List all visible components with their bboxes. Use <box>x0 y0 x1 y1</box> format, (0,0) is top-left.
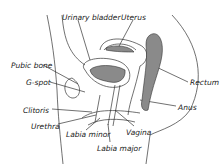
rectum-fill <box>141 34 162 111</box>
label-rectum: Rectum <box>190 79 219 87</box>
label-urethra: Urethra <box>31 123 60 131</box>
label-labia-major: Labia major <box>97 145 141 153</box>
label-pubic-bone: Pubic bone <box>11 62 52 70</box>
label-g-spot: G-spot <box>26 79 51 87</box>
label-labia-minor: Labia minor <box>66 131 110 139</box>
label-anus: Anus <box>178 104 197 112</box>
bladder-fill <box>90 66 125 83</box>
label-clitoris: Clitoris <box>23 107 49 115</box>
body-outline-front <box>47 15 63 164</box>
urethra-canal <box>95 95 100 122</box>
label-uterus: Uterus <box>121 14 146 22</box>
label-urinary-bladder: Urinary bladder <box>62 14 121 22</box>
uterus-cavity-fill <box>106 46 134 52</box>
abdomen-contour <box>62 15 85 65</box>
label-vagina: Vagina <box>126 129 151 137</box>
anatomy-diagram: Urinary bladder Uterus Pubic bone G-spot… <box>0 0 223 164</box>
